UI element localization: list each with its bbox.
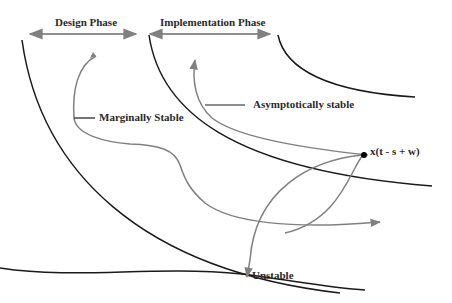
asymptotically-stable-label: Asymptotically stable	[253, 99, 354, 110]
marginally-stable-label: Marginally Stable	[99, 112, 184, 123]
design-phase-label: Design Phase	[55, 17, 117, 28]
implementation-boundary-curve	[149, 35, 432, 186]
state-point	[361, 152, 367, 158]
implementation-phase-label: Implementation Phase	[160, 17, 265, 28]
marginally-stable-trajectory	[74, 56, 380, 225]
unstable-trajectory	[247, 155, 363, 277]
inner-boundary-curve	[278, 35, 415, 97]
stability-diagram: Design Phase Implementation Phase Margin…	[0, 0, 452, 303]
unstable-label: Unstable	[252, 270, 294, 281]
state-point-label: x(t - s + w)	[370, 146, 420, 157]
middle-boundary-curve	[0, 268, 365, 290]
